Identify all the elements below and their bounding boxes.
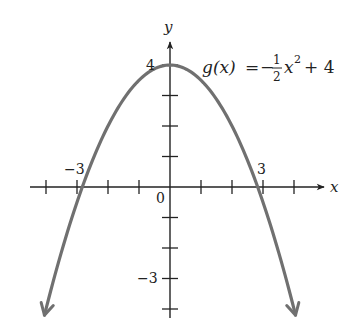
y-axis-label: y [163, 18, 173, 36]
function-equals: = [245, 57, 259, 77]
function-variable: x [284, 57, 294, 77]
fraction-numerator: 1 [273, 53, 281, 67]
origin-label: 0 [156, 190, 165, 206]
fraction-denominator: 2 [273, 70, 281, 84]
x-axis-label: x [330, 178, 339, 196]
x-tick-label-3: 3 [257, 161, 266, 177]
y-tick-label-neg3: −3 [137, 270, 158, 286]
function-label: g(x) = − 1 2 x 2 + 4 [202, 53, 334, 84]
parabola-chart: x y 0 −3 3 4 −3 g(x) = − 1 2 x 2 + 4 [0, 0, 353, 336]
function-exponent: 2 [294, 53, 301, 66]
x-tick-label-neg3: −3 [64, 161, 85, 177]
function-constant: + 4 [304, 57, 334, 77]
function-name: g(x) [202, 57, 236, 77]
y-tick-label-4: 4 [146, 57, 155, 73]
